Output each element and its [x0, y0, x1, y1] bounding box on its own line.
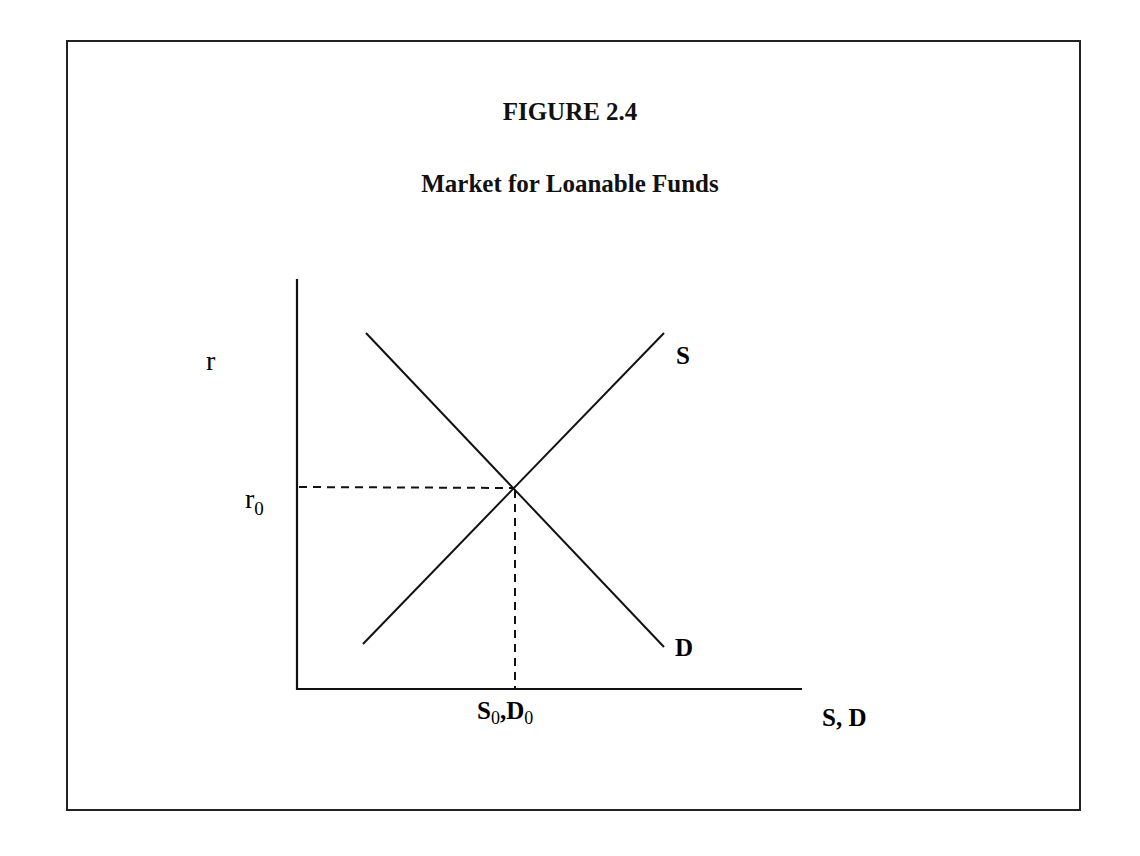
y-axis-label: r: [206, 345, 216, 376]
y-tick-r0: r0: [245, 483, 264, 519]
demand-curve-label: D: [675, 634, 693, 661]
equilibrium-rate-guide: [299, 487, 514, 488]
loanable-funds-chart: r r0 S D S0,D0 S, D: [0, 0, 1140, 856]
supply-curve-label: S: [676, 342, 690, 369]
x-axis-label: S, D: [822, 704, 866, 731]
x-tick-s0-d0: S0,D0: [477, 697, 533, 728]
